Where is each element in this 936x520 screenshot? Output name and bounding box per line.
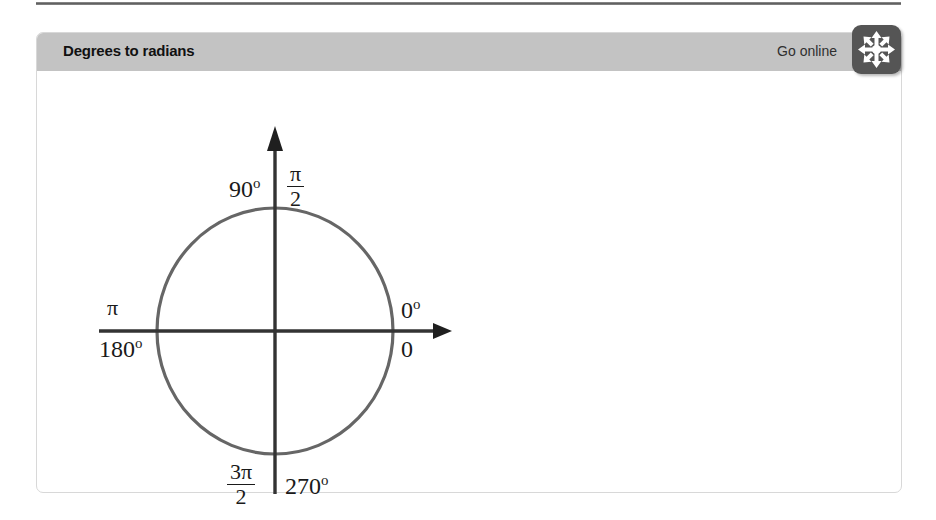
fraction-numerator: π [287, 163, 304, 187]
fraction-denominator: 2 [287, 187, 304, 210]
degree-symbol-left: o [135, 335, 142, 351]
move-arrows-icon[interactable] [852, 25, 901, 74]
label-pi-over-2: π 2 [287, 163, 304, 210]
card-header: Degrees to radians Go online [37, 33, 901, 71]
fraction-3pi-over-2: 3π 2 [227, 461, 255, 508]
label-180-degrees: 180o [99, 337, 142, 361]
label-0-radians: 0 [401, 337, 413, 361]
degree-symbol-top: o [253, 175, 260, 191]
fraction-denominator: 2 [227, 485, 255, 508]
label-3pi-over-2: 3π 2 [227, 461, 255, 508]
fraction-pi-over-2: π 2 [287, 163, 304, 210]
screenshot-root: Degrees to radians Go online [0, 0, 936, 520]
fraction-numerator: 3π [227, 461, 255, 485]
degrees-to-radians-card: Degrees to radians Go online [36, 32, 902, 493]
degree-symbol-bottom: o [321, 472, 328, 488]
label-pi: π [107, 297, 118, 319]
label-270-degrees: 270o [285, 474, 328, 498]
page-title: Degrees to radians [63, 42, 194, 59]
vertical-axis-arrowhead [267, 126, 283, 151]
go-online-link[interactable]: Go online [777, 43, 837, 59]
unit-circle-figure: 90o π 2 π 180o 0o 0 [37, 71, 901, 494]
page-top-rule [36, 2, 901, 5]
degree-symbol-right: o [413, 296, 420, 312]
label-0-degrees: 0o [401, 298, 420, 322]
horizontal-axis-arrowhead [433, 323, 452, 339]
label-90-degrees: 90o [229, 177, 260, 201]
